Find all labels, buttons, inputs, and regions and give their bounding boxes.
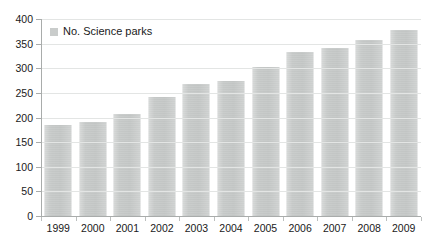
y-axis-label: 300 [0,63,33,74]
x-axis-label: 2007 [317,223,352,234]
y-axis-tick [36,191,41,192]
x-axis-label: 2002 [145,223,180,234]
x-axis-tick [352,217,353,221]
y-axis-label: 100 [0,162,33,173]
gridline [41,118,421,119]
x-axis-tick [317,217,318,221]
y-axis-tick [36,93,41,94]
bar[interactable] [45,125,72,216]
x-axis-tick [41,217,42,221]
x-axis-tick [179,217,180,221]
bar[interactable] [390,30,417,216]
y-axis-label: 350 [0,39,33,50]
x-axis-label: 2006 [283,223,318,234]
x-axis-tick [248,217,249,221]
x-axis-label: 2005 [248,223,283,234]
bar[interactable] [79,122,106,216]
gridline [41,19,421,20]
x-axis-tick [421,217,422,221]
x-axis-tick [110,217,111,221]
y-axis-tick [36,68,41,69]
x-axis-label: 2004 [214,223,249,234]
x-axis-label: 1999 [41,223,76,234]
x-axis-label: 2009 [386,223,421,234]
y-axis-label: 400 [0,14,33,25]
y-axis-tick [36,167,41,168]
bar[interactable] [148,97,175,216]
y-axis-label: 0 [0,211,33,222]
gridline [41,142,421,143]
y-axis-label: 200 [0,113,33,124]
gridline [41,191,421,192]
x-axis-label: 2003 [179,223,214,234]
y-axis-tick [36,142,41,143]
x-axis-tick [76,217,77,221]
y-axis-tick [36,118,41,119]
x-axis-tick [386,217,387,221]
x-axis-line [41,216,421,217]
gridline [41,93,421,94]
bar-chart: 050100150200250300350400 199920002001200… [0,0,433,249]
gridline [41,167,421,168]
y-axis-label: 150 [0,137,33,148]
y-axis-tick [36,44,41,45]
x-axis-tick [214,217,215,221]
bar[interactable] [114,114,141,216]
x-axis-tick [283,217,284,221]
legend-swatch-icon [50,28,58,36]
chart-legend: No. Science parks [50,26,152,37]
y-axis-label: 250 [0,88,33,99]
bar[interactable] [183,84,210,216]
legend-label: No. Science parks [63,26,152,37]
gridline [41,44,421,45]
y-axis-label: 50 [0,186,33,197]
x-axis-label: 2000 [76,223,111,234]
y-axis-tick [36,19,41,20]
gridline [41,68,421,69]
bar[interactable] [356,40,383,216]
x-axis-label: 2001 [110,223,145,234]
y-axis-line [41,19,42,217]
x-axis-label: 2008 [352,223,387,234]
bar[interactable] [217,81,244,216]
plot-area [41,19,421,216]
x-axis-tick [145,217,146,221]
